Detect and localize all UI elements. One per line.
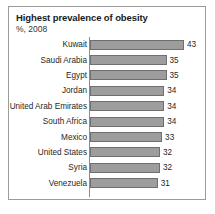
chart-bar-row: United States 32 — [9, 145, 205, 160]
bar-category-label: Syria — [9, 163, 89, 172]
bar-value-label: 35 — [170, 71, 179, 80]
bar-category-label: Egypt — [9, 71, 89, 80]
bar-category-label: Saudi Arabia — [9, 56, 89, 65]
bar-category-label: United States — [9, 148, 89, 157]
bar-category-label: Jordan — [9, 86, 89, 95]
chart-title: Highest prevalence of obesity — [16, 12, 205, 23]
bar-track: 34 — [89, 83, 205, 98]
chart-subtitle: %, 2008 — [16, 24, 205, 34]
bar-fill — [90, 55, 167, 65]
bar-category-label: Mexico — [9, 133, 89, 142]
bar-fill — [90, 117, 164, 127]
bar-track: 32 — [89, 145, 205, 160]
chart-header: Highest prevalence of obesity %, 2008 — [9, 7, 205, 34]
bar-value-label: 32 — [163, 163, 172, 172]
bar-category-label: United Arab Emirates — [9, 102, 89, 111]
bar-track: 35 — [89, 52, 205, 67]
bar-track: 33 — [89, 129, 205, 144]
chart-bar-row: Egypt 35 — [9, 68, 205, 83]
bar-fill — [90, 132, 162, 142]
bar-fill — [90, 101, 164, 111]
bar-value-label: 34 — [167, 102, 176, 111]
bar-category-label: South Africa — [9, 117, 89, 126]
bar-category-label: Venezuela — [9, 179, 89, 188]
bar-value-label: 35 — [170, 56, 179, 65]
bar-fill — [90, 178, 158, 188]
chart-bar-row: Jordan 34 — [9, 83, 205, 98]
chart-bar-row: Saudi Arabia 35 — [9, 52, 205, 67]
bar-value-label: 32 — [163, 148, 172, 157]
bar-track: 31 — [89, 176, 205, 191]
bar-track: 35 — [89, 68, 205, 83]
bar-track: 34 — [89, 99, 205, 114]
chart-bar-row: Syria 32 — [9, 160, 205, 175]
bar-track: 43 — [89, 37, 205, 52]
chart-bar-row: Kuwait 43 — [9, 37, 205, 52]
bar-fill — [90, 70, 167, 80]
bar-fill — [90, 86, 164, 96]
chart-bar-row: Mexico 33 — [9, 129, 205, 144]
bar-value-label: 33 — [165, 133, 174, 142]
bar-category-label: Kuwait — [9, 40, 89, 49]
bar-value-label: 34 — [167, 86, 176, 95]
bar-track: 34 — [89, 114, 205, 129]
bar-chart-plot-area: Kuwait 43 Saudi Arabia 35 Egypt 35 Jorda… — [9, 37, 205, 199]
bar-fill — [90, 40, 184, 50]
chart-card: Highest prevalence of obesity %, 2008 Ku… — [8, 6, 206, 200]
bar-value-label: 31 — [161, 179, 170, 188]
bar-track: 32 — [89, 160, 205, 175]
bar-fill — [90, 147, 160, 157]
chart-bar-row: Venezuela 31 — [9, 176, 205, 191]
chart-bar-row: United Arab Emirates 34 — [9, 99, 205, 114]
chart-bar-row: South Africa 34 — [9, 114, 205, 129]
bar-value-label: 34 — [167, 117, 176, 126]
bar-value-label: 43 — [187, 40, 196, 49]
bar-fill — [90, 163, 160, 173]
